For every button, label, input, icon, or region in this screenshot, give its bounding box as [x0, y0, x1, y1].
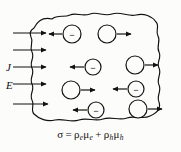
carrier-sign-label: −: [93, 106, 98, 116]
carrier-electron-1: −: [49, 25, 81, 43]
electric-field-label: E: [5, 79, 13, 91]
carrier-hole-4: [129, 100, 162, 118]
carrier-circle: [126, 56, 144, 74]
field-arrow-group: [13, 33, 48, 104]
current-density-label: J: [6, 61, 12, 73]
figure-canvas: J E − −: [0, 0, 181, 152]
carrier-sign-label: −: [133, 85, 138, 95]
conductivity-equation: σ=ρeμe+ρhμh: [0, 128, 181, 142]
carrier-hole-2: [126, 56, 158, 74]
carrier-circle: [62, 81, 80, 99]
carrier-hole-1: [98, 25, 131, 43]
carrier-sign-label: −: [69, 30, 74, 40]
carrier-electron-3: −: [113, 81, 144, 97]
carrier-sign-label: −: [90, 63, 95, 73]
carrier-hole-3: [62, 81, 95, 99]
carrier-electron-4: −: [73, 102, 104, 118]
equation-term2-mu-sub: h: [120, 133, 124, 142]
carrier-circle: [98, 25, 116, 43]
equation-plus: +: [93, 128, 104, 140]
carrier-electron-2: −: [70, 59, 101, 75]
carrier-circle: [129, 100, 147, 118]
equation-equals: =: [63, 128, 74, 140]
